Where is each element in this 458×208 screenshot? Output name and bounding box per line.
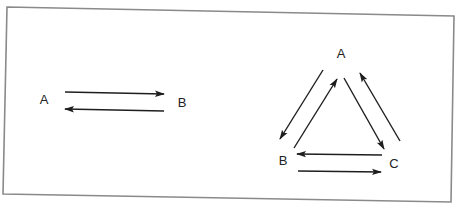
node-label-a: A (337, 46, 346, 61)
node-label-c: C (389, 156, 398, 171)
arrow-c-to-b (297, 154, 382, 155)
node-label-b: B (279, 153, 288, 168)
node-label-a: A (40, 92, 49, 107)
arrow-b-to-c (298, 171, 381, 172)
node-label-b: B (178, 95, 187, 110)
diagram-frame (3, 7, 454, 202)
diagram-canvas: A B A B C (0, 0, 458, 208)
